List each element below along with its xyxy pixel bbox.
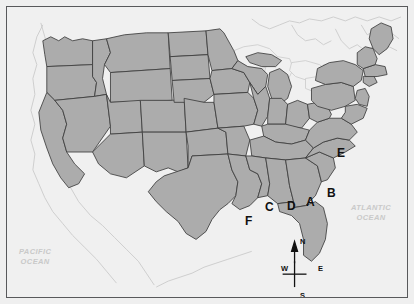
state-indiana bbox=[268, 98, 288, 124]
state-missouri bbox=[214, 92, 258, 128]
us-map-graphic bbox=[7, 7, 407, 297]
map-figure: PACIFIC OCEAN ATLANTIC OCEAN A B C D E F… bbox=[0, 0, 414, 304]
compass-south-label: S bbox=[300, 292, 305, 298]
region-label-f: F bbox=[245, 215, 252, 227]
state-new-mexico bbox=[142, 132, 188, 172]
state-wyoming bbox=[110, 69, 172, 103]
compass-east-label: E bbox=[318, 265, 323, 273]
state-montana bbox=[105, 33, 171, 73]
compass-west-label: W bbox=[281, 265, 288, 273]
region-label-e: E bbox=[337, 147, 345, 159]
state-colorado bbox=[140, 98, 186, 132]
state-washington bbox=[43, 37, 93, 67]
region-label-d: D bbox=[287, 200, 296, 212]
state-oregon bbox=[47, 65, 97, 101]
region-label-c: C bbox=[265, 201, 274, 213]
state-north-dakota bbox=[168, 31, 208, 57]
region-label-b: B bbox=[327, 187, 336, 199]
state-kansas bbox=[184, 98, 218, 132]
map-frame-border: PACIFIC OCEAN ATLANTIC OCEAN A B C D E F… bbox=[6, 6, 408, 298]
compass-north-label: N bbox=[300, 238, 305, 246]
state-south-dakota bbox=[170, 55, 210, 81]
compass-rose: N W E S bbox=[281, 238, 325, 298]
state-nebraska bbox=[172, 79, 214, 103]
region-label-a: A bbox=[306, 196, 315, 208]
